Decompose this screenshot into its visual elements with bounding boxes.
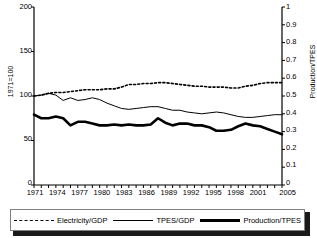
y-tick-right: 0.4 xyxy=(286,109,308,117)
legend-item-electricity-gdp: Electricity/GDP xyxy=(14,216,107,225)
y-tick-left: 50 xyxy=(10,135,32,143)
chart-legend: Electricity/GDP TPES/GDP Production/TPES xyxy=(10,209,305,231)
x-tick: 1971 xyxy=(23,188,47,197)
y-tick-right: 1 xyxy=(286,3,308,11)
x-tick: 1980 xyxy=(90,188,114,197)
y-tick-left: 0 xyxy=(10,179,32,187)
y-tick-right: 0.1 xyxy=(286,161,308,169)
legend-item-tpes-gdp: TPES/GDP xyxy=(113,216,194,225)
y-tick-right: 0.2 xyxy=(286,144,308,152)
x-tick: 2005 xyxy=(276,188,300,197)
y-axis-right-ticks: 1 0.9 0.8 0.7 0.6 0.5 0.4 0.3 0.2 0.1 0 xyxy=(286,0,310,205)
x-tick: 1983 xyxy=(112,188,136,197)
thin-line-icon xyxy=(113,217,153,224)
x-tick: 1992 xyxy=(179,188,203,197)
y-tick-right: 0 xyxy=(286,179,308,187)
y-tick-right: 0.6 xyxy=(286,73,308,81)
dotted-line-icon xyxy=(14,217,54,224)
x-tick: 1974 xyxy=(45,188,69,197)
legend-label: Production/TPES xyxy=(243,216,301,225)
y-tick-right: 0.7 xyxy=(286,56,308,64)
y-tick-left: 150 xyxy=(10,47,32,55)
x-tick: 1989 xyxy=(157,188,181,197)
y-tick-left: 200 xyxy=(10,3,32,11)
y-tick-right: 0.8 xyxy=(286,38,308,46)
chart-figure: 1971=100 Production/TPES 200 150 100 50 … xyxy=(0,0,317,238)
legend-label: TPES/GDP xyxy=(156,216,194,225)
plot-figure: 1971=100 Production/TPES 200 150 100 50 … xyxy=(0,0,317,205)
y-tick-right: 0.5 xyxy=(286,91,308,99)
x-tick: 1995 xyxy=(201,188,225,197)
legend-label: Electricity/GDP xyxy=(57,216,107,225)
legend-item-production-tpes: Production/TPES xyxy=(200,216,301,225)
x-tick: 1998 xyxy=(224,188,248,197)
y-tick-left: 100 xyxy=(10,91,32,99)
y-tick-right: 0.9 xyxy=(286,21,308,29)
y-axis-left-ticks: 200 150 100 50 0 xyxy=(8,0,32,205)
y-tick-right: 0.3 xyxy=(286,126,308,134)
x-tick: 1977 xyxy=(68,188,92,197)
plot-area xyxy=(0,0,317,205)
x-tick: 2001 xyxy=(246,188,270,197)
thick-line-icon xyxy=(200,217,240,224)
x-axis-ticks: 1971 1974 1977 1980 1983 1986 1989 1992 … xyxy=(0,188,317,202)
x-tick: 1986 xyxy=(135,188,159,197)
